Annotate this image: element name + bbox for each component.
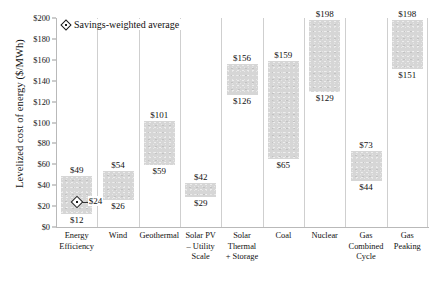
y-axis-tick-label: $160: [8, 55, 50, 64]
y-axis-tick-mark: [52, 206, 56, 207]
y-axis-tick-mark: [52, 143, 56, 144]
category-separator-line: [180, 18, 181, 227]
category-separator-line: [304, 18, 305, 227]
range-bar[interactable]: [392, 20, 423, 69]
y-axis-tick-mark: [52, 227, 56, 228]
y-axis-tick-label: $20: [8, 202, 50, 211]
bar-high-value-label: $198: [316, 9, 334, 19]
x-axis-line: [56, 227, 429, 228]
y-axis-tick-label: $80: [8, 139, 50, 148]
y-axis-tick-label: $40: [8, 181, 50, 190]
plot-area: $0$20$40$60$80$100$120$140$160$180$200$4…: [56, 18, 428, 227]
bar-low-value-label: $129: [316, 93, 334, 103]
y-axis-tick-label: $60: [8, 160, 50, 169]
y-axis-tick-mark: [52, 185, 56, 186]
bar-low-value-label: $29: [194, 198, 208, 208]
x-axis-category-label-line: Peaking: [377, 242, 433, 253]
x-axis-category-label-line: Efficiency: [47, 242, 107, 253]
bar-low-value-label: $44: [359, 182, 373, 192]
x-axis-category-label[interactable]: GasPeaking: [377, 231, 433, 252]
range-bar[interactable]: [227, 64, 258, 95]
bar-low-value-label: $65: [277, 160, 291, 170]
bar-high-value-label: $156: [233, 53, 251, 63]
x-axis-category-label-line: Thermal: [212, 242, 272, 253]
bar-high-value-label: $101: [150, 110, 168, 120]
y-axis-tick-mark: [52, 18, 56, 19]
x-axis-category-label-line: Cycle: [336, 252, 396, 263]
category-separator-line: [263, 18, 264, 227]
y-axis-tick-mark: [52, 80, 56, 81]
bar-high-value-label: $49: [70, 165, 84, 175]
y-axis-tick-label: $200: [8, 14, 50, 23]
range-bar[interactable]: [103, 171, 134, 200]
category-separator-line: [345, 18, 346, 227]
y-axis-tick-mark: [52, 122, 56, 123]
range-bar[interactable]: [144, 121, 175, 165]
savings-weighted-average-value-label: $24: [88, 196, 104, 206]
range-bar[interactable]: [268, 61, 299, 159]
savings-weighted-average-diamond-icon: [62, 21, 70, 29]
bar-low-value-label: $12: [70, 215, 84, 225]
category-separator-line: [387, 18, 388, 227]
chart-root: Levelized cost of energy ($/MWh) $0$20$4…: [0, 0, 433, 284]
category-separator-line: [139, 18, 140, 227]
bar-low-value-label: $126: [233, 96, 251, 106]
range-bar[interactable]: [309, 20, 340, 92]
y-axis-tick-label: $180: [8, 34, 50, 43]
legend: Savings-weighted average: [62, 19, 181, 30]
y-axis-tick-mark: [52, 38, 56, 39]
y-axis-tick-label: $100: [8, 118, 50, 127]
x-axis-labels: EnergyEfficiencyWindGeothermalSolar PV– …: [56, 231, 429, 281]
bar-high-value-label: $42: [194, 172, 208, 182]
y-axis-tick-mark: [52, 164, 56, 165]
x-axis-category-label-line: Gas: [377, 231, 433, 242]
bar-high-value-label: $159: [274, 50, 292, 60]
y-axis-tick-mark: [52, 59, 56, 60]
plot-right-border: [427, 18, 428, 227]
marker-center-dot: [76, 201, 78, 203]
y-axis-tick-label: $0: [8, 223, 50, 232]
range-bar[interactable]: [185, 183, 216, 197]
legend-label-savings-weighted-average: Savings-weighted average: [74, 19, 179, 30]
y-axis-tick-label: $140: [8, 76, 50, 85]
x-axis-category-label-line: + Storage: [212, 252, 272, 263]
y-axis-tick-label: $120: [8, 97, 50, 106]
range-bar[interactable]: [351, 151, 382, 181]
bar-high-value-label: $54: [111, 160, 125, 170]
bar-low-value-label: $26: [111, 201, 125, 211]
category-separator-line: [221, 18, 222, 227]
bar-high-value-label: $198: [398, 9, 416, 19]
y-axis-tick-mark: [52, 101, 56, 102]
bar-high-value-label: $73: [359, 140, 373, 150]
bar-low-value-label: $151: [398, 70, 416, 80]
bar-low-value-label: $59: [153, 166, 167, 176]
